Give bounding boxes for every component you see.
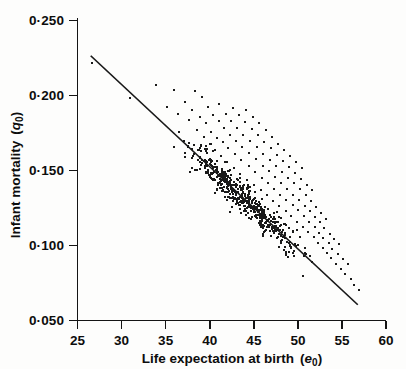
data-point [235,183,237,185]
data-point [268,218,270,220]
data-point [223,186,225,188]
data-point [248,192,250,194]
data-point [224,175,226,177]
data-point [247,196,249,198]
data-point [230,120,232,122]
data-point [241,189,243,191]
data-point [216,176,218,178]
data-point [219,187,221,189]
data-point [320,212,322,214]
x-tick-label-30: 30 [114,333,129,348]
data-point [247,186,249,188]
data-point [201,96,203,98]
data-point [280,241,282,243]
data-point [251,202,253,204]
data-point [277,236,279,238]
data-point [217,184,219,186]
data-point [262,227,264,229]
data-point [239,201,241,203]
data-point [279,229,281,231]
data-point [277,221,279,223]
data-point [285,254,287,256]
data-point [302,275,304,277]
data-point [279,194,281,196]
data-point [232,200,234,202]
data-point [236,200,238,202]
data-point [220,155,222,157]
data-point [197,159,199,161]
data-point [254,171,256,173]
data-point [245,109,247,111]
data-point [314,226,316,228]
x-tick-labels: 25 30 35 40 45 50 55 60 [70,333,394,348]
data-point [244,121,246,123]
data-point [322,237,324,239]
data-point [194,90,196,92]
data-point [247,212,249,214]
data-point [240,212,242,214]
data-point [353,284,355,286]
data-point [227,175,229,177]
data-point [258,222,260,224]
data-point [288,227,290,229]
data-point [91,62,93,64]
data-point [298,199,300,201]
data-point [295,161,297,163]
y-axis-ticks [69,21,78,321]
data-point [239,181,241,183]
data-point [208,159,210,161]
data-point [218,120,220,122]
data-point [288,166,290,168]
data-point [214,192,216,194]
data-point [293,182,295,184]
data-point [216,137,218,139]
data-point [226,161,228,163]
data-point [196,129,198,131]
data-point [296,229,298,231]
data-point [292,204,294,206]
data-point [301,167,303,169]
data-point [314,216,316,218]
data-point [269,230,271,232]
data-point [335,263,337,265]
data-point [292,252,294,254]
data-point [248,152,250,154]
data-point [253,184,255,186]
axes-group [78,18,387,321]
data-point [249,140,251,142]
data-point [299,188,301,190]
data-point [283,249,285,251]
data-point [237,179,239,181]
data-point [325,218,327,220]
data-point [240,159,242,161]
data-point [304,247,306,249]
data-point [200,164,202,166]
data-point [229,177,231,179]
scatter-plot: 0·250 0·200 0·150 0·100 0·050 25 30 35 4… [0,0,406,369]
data-point [282,229,284,231]
data-point [246,207,248,209]
data-point [257,134,259,136]
data-point [196,169,198,171]
data-point [224,172,226,174]
x-tick-label-55: 55 [334,333,350,348]
data-point [266,194,268,196]
data-point [273,188,275,190]
data-point [230,179,232,181]
data-point [258,122,260,124]
data-point [194,169,196,171]
data-point [227,147,229,149]
data-point [340,268,342,270]
data-point [222,175,224,177]
data-point [285,199,287,201]
data-point [263,211,265,213]
data-point [230,174,232,176]
data-point [254,202,256,204]
data-point [238,204,240,206]
data-point [347,263,349,265]
data-point [207,171,209,173]
data-point [337,253,339,255]
x-axis-ticks [78,321,387,330]
data-point [281,171,283,173]
data-point [259,220,261,222]
